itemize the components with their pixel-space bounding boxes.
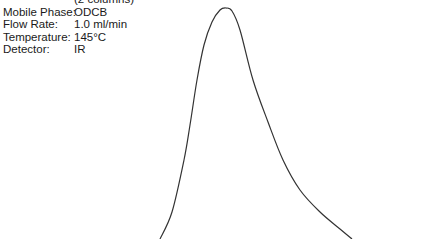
chromatogram-plot [0, 0, 441, 239]
chromatogram-peak-line [160, 8, 352, 239]
